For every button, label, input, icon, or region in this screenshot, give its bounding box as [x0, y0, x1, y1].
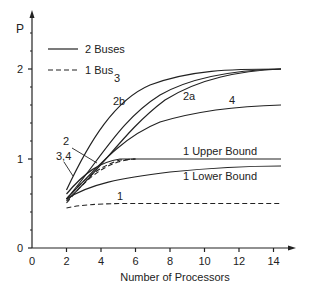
y-tick-1: 1 [17, 153, 23, 165]
curve-1-bus-1 [67, 204, 282, 209]
y-tick-0: 0 [17, 242, 23, 254]
x-axis-label: Number of Processors [120, 271, 230, 283]
legend-solid-label: 2 Buses [85, 43, 125, 55]
legend-dashed-label: 1 Bus [85, 64, 114, 76]
y-tick-2: 2 [17, 63, 23, 75]
curve-1-bus-2 [67, 159, 139, 203]
x-tick-10: 10 [198, 255, 210, 267]
x-tick-12: 12 [233, 255, 245, 267]
x-tick-6: 6 [132, 255, 138, 267]
annotations: 3 2a 2b 4 2 3,4 1 Upper Bound 1 Lower Bo… [56, 72, 257, 202]
y-axis-arrow-icon [30, 10, 35, 18]
annotation-2: 2 [63, 135, 69, 147]
x-tick-0: 0 [29, 255, 35, 267]
annotation-1-lower-bound: 1 Lower Bound [183, 170, 257, 182]
annotation-1-upper-bound: 1 Upper Bound [183, 145, 257, 157]
x-tick-8: 8 [167, 255, 173, 267]
x-tick-labels: 0 2 4 6 8 10 12 14 [29, 255, 280, 267]
x-tick-2: 2 [63, 255, 69, 267]
annotation-3: 3 [114, 72, 120, 84]
chart: 0 2 4 6 8 10 12 14 0 1 2 P Number of Pro… [0, 0, 330, 296]
annotation-4: 4 [229, 94, 235, 106]
annotation-2a: 2a [183, 90, 196, 102]
x-tick-4: 4 [98, 255, 104, 267]
annotation-2b: 2b [113, 95, 125, 107]
y-tick-labels: 0 1 2 [17, 63, 23, 254]
x-tick-14: 14 [267, 255, 279, 267]
y-axis-label: P [16, 22, 24, 36]
x-axis-arrow-icon [288, 246, 296, 251]
annotation-3-4: 3,4 [56, 150, 71, 162]
annotation-1: 1 [117, 190, 123, 202]
axes [28, 10, 296, 252]
